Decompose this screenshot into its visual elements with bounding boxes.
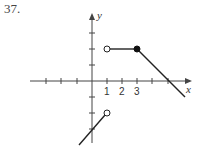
x-axis-label: x — [185, 83, 191, 95]
x-tick-label-3: 3 — [134, 86, 140, 97]
open-endpoint-1-2 — [104, 46, 110, 52]
y-axis — [89, 13, 95, 143]
y-axis-arrow-icon — [89, 13, 95, 20]
open-endpoint-1-neg2 — [104, 110, 110, 116]
piecewise-graph: y x 1 2 3 — [0, 0, 206, 150]
y-axis-label: y — [96, 9, 102, 21]
x-tick-label-2: 2 — [119, 86, 125, 97]
closed-endpoint-3-2 — [134, 46, 140, 52]
right-segment — [137, 49, 185, 97]
x-tick-label-1: 1 — [104, 86, 110, 97]
